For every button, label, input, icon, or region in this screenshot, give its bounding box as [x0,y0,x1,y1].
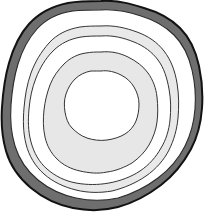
ring-cross-section-figure [0,0,204,212]
ring-diagram-svg [0,0,204,212]
ring-core-white [64,71,139,141]
